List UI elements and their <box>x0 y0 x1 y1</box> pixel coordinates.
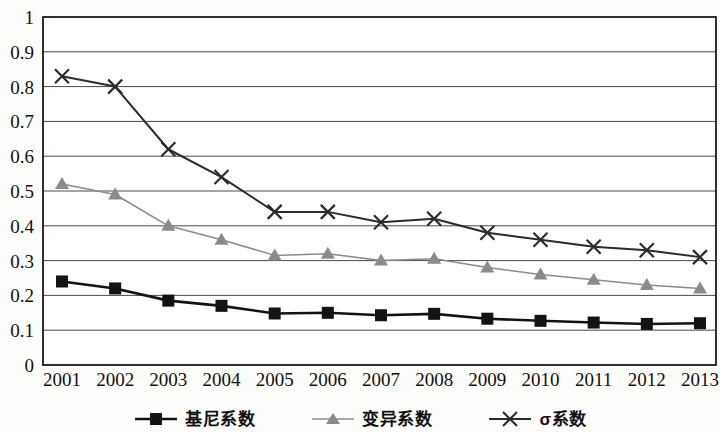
data-point <box>56 275 68 287</box>
legend-marker-square-icon <box>134 410 178 428</box>
x-axis-tick-2013: 2013 <box>681 370 719 390</box>
data-point <box>109 282 121 294</box>
legend-label: 基尼系数 <box>185 411 255 428</box>
y-axis-tick-0.4: 0.4 <box>10 216 34 235</box>
x-axis-tick-2006: 2006 <box>309 370 347 390</box>
data-point <box>269 307 281 319</box>
y-axis-tick-labels: 10.90.80.70.60.50.40.30.20.10 <box>0 0 34 434</box>
x-axis-tick-2001: 2001 <box>43 370 81 390</box>
x-axis-tick-2009: 2009 <box>468 370 506 390</box>
legend-item-2[interactable]: 变异系数 <box>311 410 432 428</box>
y-axis-tick-0.1: 0.1 <box>10 321 34 340</box>
legend-item-1[interactable]: 基尼系数 <box>134 410 255 428</box>
legend-label: 变异系数 <box>362 411 432 428</box>
x-axis-tick-2010: 2010 <box>522 370 560 390</box>
y-axis-tick-0.8: 0.8 <box>10 77 34 96</box>
x-axis-tick-2012: 2012 <box>628 370 666 390</box>
x-axis-tick-2005: 2005 <box>256 370 294 390</box>
chart-legend: 基尼系数变异系数σ系数 <box>0 404 721 434</box>
y-axis-tick-1: 1 <box>25 8 35 27</box>
x-axis-tick-2011: 2011 <box>575 370 612 390</box>
x-axis-tick-labels: 2001200220032004200520062007200820092010… <box>0 370 721 396</box>
data-point <box>535 315 547 327</box>
y-axis-tick-0.6: 0.6 <box>10 147 34 166</box>
legend-marker-triangle-icon <box>311 410 355 428</box>
data-point <box>588 317 600 329</box>
x-axis-tick-2007: 2007 <box>362 370 400 390</box>
data-point <box>216 300 228 312</box>
y-axis-tick-0.2: 0.2 <box>10 286 34 305</box>
y-axis-tick-0.7: 0.7 <box>10 112 34 131</box>
data-point <box>322 307 334 319</box>
legend-label: σ系数 <box>539 411 586 428</box>
x-axis-tick-2008: 2008 <box>415 370 453 390</box>
data-point <box>162 295 174 307</box>
data-point <box>694 317 706 329</box>
legend-item-3[interactable]: σ系数 <box>488 410 586 428</box>
y-axis-tick-0.3: 0.3 <box>10 251 34 270</box>
x-axis-tick-2004: 2004 <box>203 370 241 390</box>
legend-marker-cross-icon <box>488 410 532 428</box>
x-axis-tick-2002: 2002 <box>96 370 134 390</box>
x-axis-tick-2003: 2003 <box>149 370 187 390</box>
data-point <box>375 309 387 321</box>
y-axis-tick-0.9: 0.9 <box>10 42 34 61</box>
y-axis-tick-0.5: 0.5 <box>10 182 34 201</box>
data-point <box>641 318 653 330</box>
data-point <box>428 308 440 320</box>
data-point <box>481 313 493 325</box>
line-chart: 10.90.80.70.60.50.40.30.20.10 2001200220… <box>0 0 721 434</box>
